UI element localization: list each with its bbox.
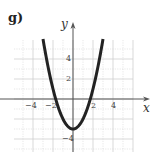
x-axis-label: x — [143, 101, 150, 115]
x-tick-label: −2 — [45, 101, 57, 110]
y-tick-label: 4 — [66, 54, 71, 63]
x-tick-label: 2 — [91, 101, 96, 110]
parabola-graph — [0, 0, 156, 152]
x-tick-label: −4 — [25, 101, 37, 110]
y-tick-label: 2 — [66, 74, 71, 83]
y-axis-label: y — [61, 17, 68, 31]
x-tick-label: 4 — [111, 101, 116, 110]
panel-label: g) — [8, 10, 23, 25]
y-tick-label: −4 — [62, 134, 74, 143]
